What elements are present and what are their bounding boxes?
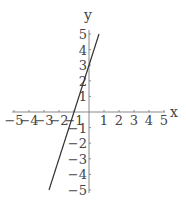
x-tick-label: 4 — [145, 113, 153, 128]
y-tick-label: −5 — [68, 183, 87, 198]
y-tick-label: −4 — [68, 167, 87, 182]
x-axis-label: x — [170, 104, 178, 120]
x-tick-label: 3 — [130, 113, 138, 128]
y-axis-label: y — [83, 7, 92, 23]
x-tick-label: 1 — [100, 113, 108, 128]
y-tick-label: 4 — [79, 43, 87, 58]
line-chart: −5−4−3−2−112345−5−4−3−2−112345 x y — [0, 0, 186, 202]
y-tick-label: 5 — [79, 27, 87, 42]
x-tick-label: 5 — [160, 113, 168, 128]
y-tick-label: 3 — [79, 58, 87, 73]
axes — [12, 30, 165, 193]
x-tick-label: 2 — [115, 113, 123, 128]
y-tick-label: −3 — [68, 152, 87, 167]
y-tick-label: −2 — [68, 136, 87, 151]
